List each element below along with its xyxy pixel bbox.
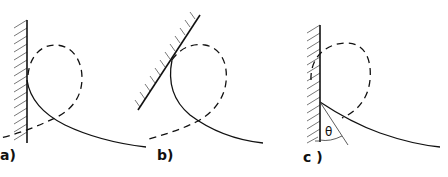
solid-curve <box>320 102 440 147</box>
wall-hatching <box>135 12 195 107</box>
panel-label: b) <box>157 147 173 163</box>
panel-label: c ) <box>303 149 323 165</box>
wall <box>138 15 200 110</box>
wall-hatching <box>14 20 27 140</box>
panel-c: θ c ) <box>303 25 440 165</box>
panel-label: a) <box>0 147 16 163</box>
angle-label: θ <box>325 125 332 139</box>
panel-b: b) <box>135 12 263 163</box>
dashed-loop <box>0 45 82 138</box>
dashed-loop <box>145 45 226 140</box>
panel-a: a) <box>0 20 146 163</box>
solid-curve <box>171 60 263 143</box>
solid-curve <box>27 80 146 147</box>
wall-hatching <box>307 25 320 143</box>
three-panel-wall-curve-figure: a) b) <box>0 0 448 177</box>
